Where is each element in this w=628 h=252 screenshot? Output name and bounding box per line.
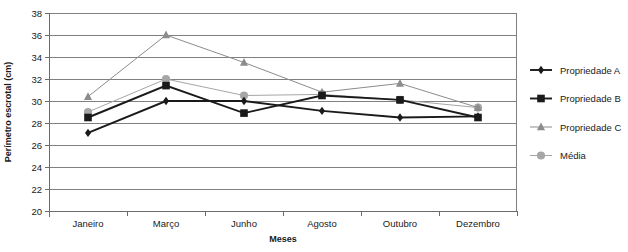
data-point-diamond-janeiro — [85, 129, 91, 137]
legend-item-propriedade-c[interactable]: Propriedade C — [530, 122, 621, 133]
legend-item-média[interactable]: Média — [530, 150, 587, 161]
legend-marker-triangle-icon — [537, 123, 545, 131]
chart-canvas: 20222426283032343638JaneiroMarçoJunhoAgo… — [0, 0, 628, 252]
data-point-diamond-outubro — [397, 113, 403, 121]
y-axis-title: Perímetro escrotal (cm) — [3, 62, 13, 163]
legend-label-propriedade-b: Propriedade B — [560, 93, 621, 104]
y-tick-label-20: 20 — [31, 206, 42, 217]
series-line-propriedade-a — [88, 101, 478, 133]
x-tick-label-agosto: Agosto — [307, 218, 337, 229]
data-point-square-janeiro — [84, 114, 92, 122]
data-point-square-junho — [240, 109, 248, 117]
legend-label-média: Média — [560, 150, 587, 161]
y-tick-label-38: 38 — [31, 8, 42, 19]
x-tick-label-junho: Junho — [231, 218, 257, 229]
series-line-propriedade-c — [88, 35, 478, 108]
y-tick-label-22: 22 — [31, 184, 42, 195]
y-tick-label-24: 24 — [31, 162, 42, 173]
data-point-diamond-março — [163, 97, 169, 105]
data-point-diamond-agosto — [319, 107, 325, 115]
legend-label-propriedade-c: Propriedade C — [560, 122, 621, 133]
data-point-square-agosto — [318, 92, 326, 100]
data-point-triangle-março — [162, 31, 170, 39]
y-tick-label-26: 26 — [31, 140, 42, 151]
legend-label-propriedade-a: Propriedade A — [560, 65, 621, 76]
y-tick-label-30: 30 — [31, 96, 42, 107]
data-point-triangle-outubro — [396, 79, 404, 87]
y-tick-label-34: 34 — [31, 52, 42, 63]
y-tick-label-28: 28 — [31, 118, 42, 129]
x-axis-title: Meses — [269, 234, 297, 244]
y-tick-label-32: 32 — [31, 74, 42, 85]
legend-marker-diamond-icon — [538, 66, 544, 74]
x-tick-label-março: Março — [153, 218, 179, 229]
legend-item-propriedade-b[interactable]: Propriedade B — [530, 93, 621, 104]
scrotal-perimeter-line-chart: 20222426283032343638JaneiroMarçoJunhoAgo… — [0, 0, 628, 252]
legend-marker-square-icon — [537, 95, 545, 103]
data-point-triangle-janeiro — [84, 92, 92, 100]
legend-item-propriedade-a[interactable]: Propriedade A — [530, 65, 621, 76]
series-propriedade-a — [85, 97, 481, 137]
y-tick-label-36: 36 — [31, 30, 42, 41]
x-tick-label-outubro: Outubro — [383, 218, 417, 229]
series-line-média — [88, 79, 478, 112]
legend: Propriedade APropriedade BPropriedade CM… — [530, 65, 621, 162]
data-point-square-março — [162, 82, 170, 90]
series-propriedade-c — [84, 31, 482, 111]
legend-marker-circle-icon — [537, 151, 545, 159]
gridlines-group — [45, 14, 517, 212]
x-tick-label-janeiro: Janeiro — [72, 218, 103, 229]
data-point-square-outubro — [396, 96, 404, 104]
x-tick-label-dezembro: Dezembro — [456, 218, 500, 229]
